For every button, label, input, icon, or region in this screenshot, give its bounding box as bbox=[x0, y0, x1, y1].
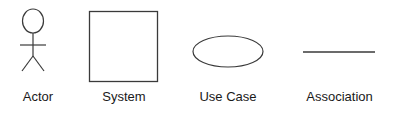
use-case-ellipse-icon bbox=[191, 32, 265, 72]
association-line-icon bbox=[301, 46, 377, 58]
system-boundary-shape bbox=[90, 12, 158, 82]
legend-item-actor: Actor bbox=[0, 0, 76, 117]
legend-label-actor: Actor bbox=[0, 88, 76, 105]
legend-label-system: System bbox=[84, 88, 164, 105]
legend-label-association: Association bbox=[290, 88, 389, 105]
actor-left-leg-icon bbox=[22, 56, 33, 71]
system-rectangle-icon bbox=[88, 8, 161, 84]
legend-item-association: Association bbox=[290, 0, 389, 117]
actor-right-leg-icon bbox=[33, 56, 44, 71]
legend-item-usecase: Use Case bbox=[178, 0, 278, 117]
actor-glyph-area bbox=[0, 0, 76, 86]
actor-head-icon bbox=[23, 9, 44, 33]
legend-label-usecase: Use Case bbox=[178, 88, 278, 105]
system-glyph-area bbox=[84, 0, 164, 86]
legend-item-system: System bbox=[84, 0, 164, 117]
usecase-glyph-area bbox=[178, 0, 278, 86]
uml-legend: Actor System Use Case Association bbox=[0, 0, 401, 117]
association-glyph-area bbox=[290, 0, 389, 86]
use-case-shape bbox=[193, 36, 263, 67]
actor-stick-figure-icon bbox=[13, 6, 63, 78]
